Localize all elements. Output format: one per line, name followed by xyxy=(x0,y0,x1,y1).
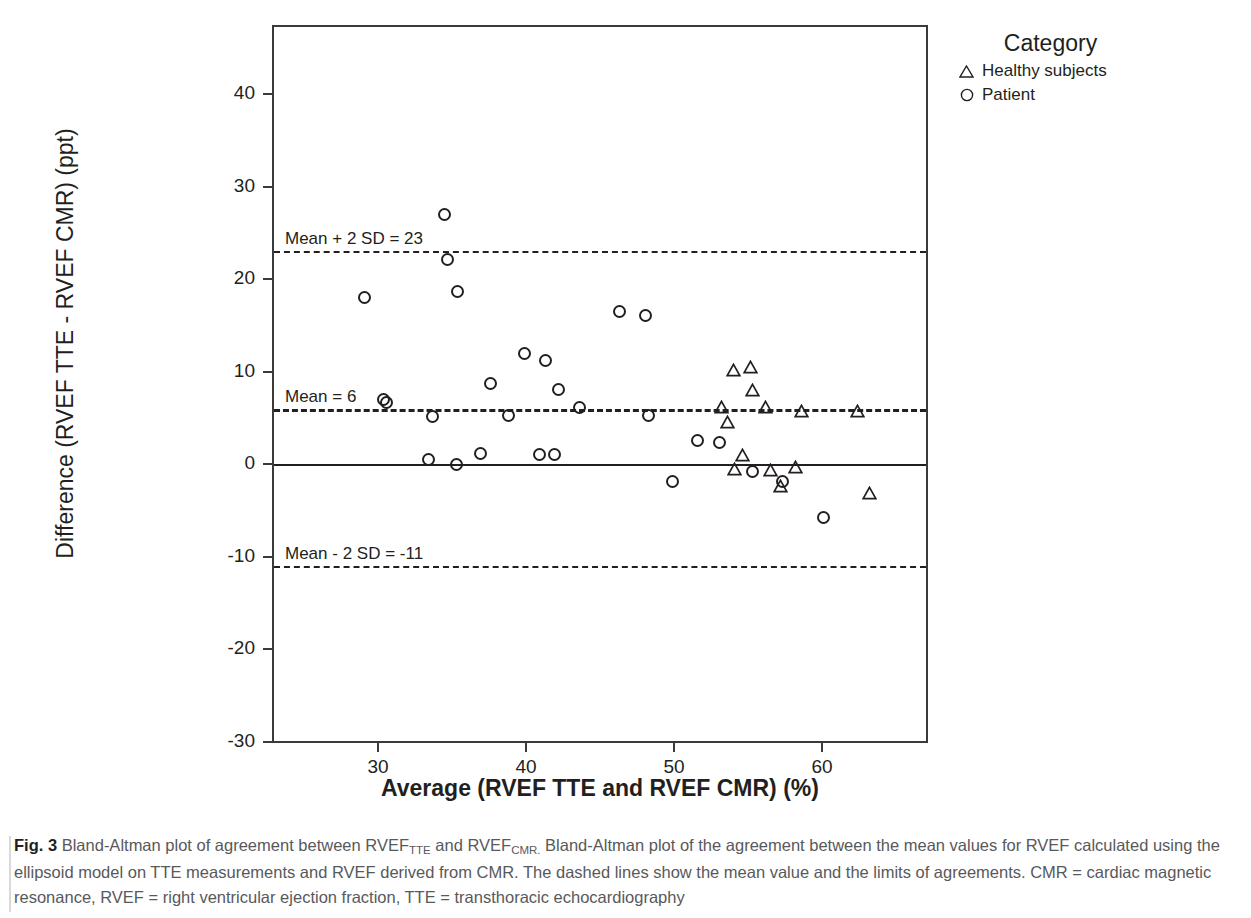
data-point-patient xyxy=(533,448,546,461)
y-axis-tick-label: 30 xyxy=(195,175,255,197)
legend-title: Category xyxy=(958,30,1143,57)
caption-rule xyxy=(9,836,11,912)
y-axis-tick-label: -20 xyxy=(195,637,255,659)
data-point-patient xyxy=(422,453,435,466)
reference-line-mean-difference xyxy=(274,409,926,412)
legend-item-healthy-subjects: Healthy subjects xyxy=(958,61,1238,81)
legend-item-patient: Patient xyxy=(958,85,1238,105)
data-point-patient xyxy=(639,309,652,322)
data-point-patient xyxy=(666,475,679,488)
data-point-patient xyxy=(573,401,586,414)
reference-line-zero-line xyxy=(274,464,926,466)
x-axis-tick xyxy=(377,743,379,752)
scatter-plot: -30-20-1001020304030405060Difference (RV… xyxy=(0,0,1251,800)
data-point-patient xyxy=(548,448,561,461)
data-point-patient xyxy=(539,354,552,367)
reference-line-label-lower-limit-of-agreement: Mean - 2 SD = -11 xyxy=(282,544,426,564)
y-axis-title: Difference (RVEF TTE - RVEF CMR) (ppt) xyxy=(52,114,79,574)
y-axis-tick-label: -10 xyxy=(195,545,255,567)
figure-container: -30-20-1001020304030405060Difference (RV… xyxy=(0,0,1251,918)
y-axis-tick-label: 0 xyxy=(195,452,255,474)
y-axis-tick xyxy=(263,556,272,558)
y-axis-tick-label: 40 xyxy=(195,82,255,104)
legend-label-healthy-subjects: Healthy subjects xyxy=(982,61,1107,81)
y-axis-tick xyxy=(263,371,272,373)
y-axis-tick xyxy=(263,186,272,188)
caption-subscript-cmr: CMR. xyxy=(511,844,540,856)
circle-marker-icon xyxy=(958,87,975,104)
reference-line-upper-limit-of-agreement xyxy=(274,251,926,253)
data-point-patient xyxy=(438,208,451,221)
data-point-patient xyxy=(484,377,497,390)
caption-subscript-tte: TTE xyxy=(409,844,431,856)
reference-line-label-mean-difference: Mean = 6 xyxy=(282,387,359,407)
reference-line-label-upper-limit-of-agreement: Mean + 2 SD = 23 xyxy=(282,229,426,249)
y-axis-tick xyxy=(263,463,272,465)
data-point-patient xyxy=(613,305,626,318)
reference-line-lower-limit-of-agreement xyxy=(274,566,926,568)
data-point-patient xyxy=(552,383,565,396)
y-axis-tick xyxy=(263,93,272,95)
figure-caption: Fig. 3 Bland-Altman plot of agreement be… xyxy=(14,833,1242,910)
x-axis-tick xyxy=(525,743,527,752)
data-point-patient xyxy=(474,447,487,460)
y-axis-tick-label: 10 xyxy=(195,360,255,382)
y-axis-tick xyxy=(263,278,272,280)
legend-label-patient: Patient xyxy=(982,85,1035,105)
chart-legend: Category Healthy subjects Patient xyxy=(958,30,1238,105)
x-axis-title: Average (RVEF TTE and RVEF CMR) (%) xyxy=(272,775,928,802)
y-axis-tick xyxy=(263,741,272,743)
data-point-patient xyxy=(518,347,531,360)
y-axis-tick-label: 20 xyxy=(195,267,255,289)
x-axis-tick xyxy=(673,743,675,752)
plot-frame xyxy=(272,25,928,743)
x-axis-tick xyxy=(821,743,823,752)
triangle-marker-icon xyxy=(958,63,975,80)
y-axis-tick xyxy=(263,648,272,650)
data-point-patient xyxy=(450,458,463,471)
figure-label: Fig. 3 xyxy=(14,836,57,854)
data-point-patient xyxy=(746,465,759,478)
y-axis-tick-label: -30 xyxy=(195,730,255,752)
